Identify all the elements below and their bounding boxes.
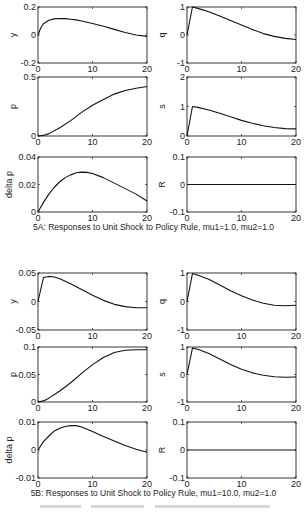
x-tick-label: 0 [184,331,189,341]
y-tick-label: 0.01 [18,417,36,427]
y-tick-label: 0.1 [23,342,36,352]
y-tick-label: -1 [177,58,185,68]
y-tick-label: 1 [180,102,185,112]
x-tick-label: 20 [142,137,152,147]
axes-frame [38,273,147,330]
axes-frame [38,157,147,212]
y-axis-label: p [8,372,18,377]
y-tick-label: 0.05 [18,370,36,380]
y-axis-label: y [8,32,18,37]
y-tick-label: 0 [180,445,185,455]
y-tick-label: 0 [31,131,36,141]
y-axis-label: R [157,181,167,188]
x-tick-label: 10 [87,137,97,147]
x-tick-label: 0 [184,403,189,413]
axes-frame [38,347,147,402]
subplot-5a-delta-p: 0102000.020.04delta p [4,152,152,223]
y-tick-label: 0.02 [18,180,36,190]
caption-5b: 5B: Responses to Unit Shock to Policy Ru… [0,488,307,498]
y-tick-label: 0 [180,30,185,40]
x-tick-label: 20 [142,331,152,341]
y-tick-label: 0 [180,180,185,190]
x-tick-label: 10 [87,403,97,413]
y-tick-label: 1 [180,268,185,278]
y-axis-label: delta p [4,171,14,198]
y-tick-label: 0 [31,30,36,40]
y-tick-label: 0 [31,207,36,217]
y-axis-label: delta p [4,436,14,463]
subplot-5a-p: 0102000.5p [8,72,152,147]
y-tick-label: -1 [177,397,185,407]
y-tick-label: 0.5 [23,72,36,82]
response-line [187,7,296,39]
response-line [38,426,147,453]
y-axis-label: q [157,32,167,37]
axes-frame [38,77,147,136]
subplot-5a-q: 01020-101q [157,2,301,74]
y-tick-label: 0 [31,397,36,407]
y-tick-label: 1 [180,2,185,12]
x-tick-label: 20 [291,137,301,147]
y-tick-label: -0.1 [169,207,185,217]
y-axis-label: p [8,104,18,109]
x-tick-label: 10 [236,137,246,147]
subplot-5b-p: 0102000.050.1p [8,342,152,413]
y-axis-label: q [157,299,167,304]
x-tick-label: 0 [35,137,40,147]
caption-5a: 5A: Responses to Unit Shock to Policy Ru… [0,222,307,232]
y-tick-label: 0.1 [172,152,185,162]
subplot-5b-s: 01020-101s [157,342,301,413]
y-tick-label: 0 [180,297,185,307]
x-tick-label: 20 [142,403,152,413]
response-line [38,18,147,36]
illegible-footer-caption [40,505,270,508]
x-tick-label: 10 [87,331,97,341]
x-tick-label: 0 [35,403,40,413]
subplot-5a-s: 01020012s [157,72,301,147]
y-tick-label: 0.1 [172,417,185,427]
subplot-5a-R: 01020-0.100.1R [157,152,301,223]
y-tick-label: 0.2 [23,2,36,12]
y-tick-label: -1 [177,325,185,335]
x-tick-label: 20 [291,331,301,341]
response-line [38,276,147,307]
subplot-5b-q: 01020-101q [157,268,301,341]
y-tick-label: -0.01 [15,473,36,483]
x-tick-label: 10 [236,331,246,341]
y-tick-label: 0.04 [18,152,36,162]
x-tick-label: 20 [291,64,301,74]
impulse-response-figure: 01020-0.200.2y01020-101q0102000.5p010200… [0,0,307,514]
subplot-5b-R: 01020-0.100.1R [157,417,301,489]
x-tick-label: 20 [142,64,152,74]
x-tick-label: 10 [236,64,246,74]
axes-frame [187,7,296,63]
subplot-5a-y: 01020-0.200.2y [8,2,152,74]
response-line [38,350,147,402]
y-tick-label: -0.1 [169,473,185,483]
x-tick-label: 0 [184,137,189,147]
y-axis-label: R [157,446,167,453]
response-line [187,348,296,377]
response-line [187,274,296,306]
y-tick-label: 0 [31,297,36,307]
axes-frame [38,7,147,63]
x-tick-label: 20 [291,403,301,413]
x-tick-label: 10 [236,403,246,413]
y-tick-label: 0.05 [18,268,36,278]
x-tick-label: 10 [87,64,97,74]
axes-frame [187,273,296,330]
subplot-5b-y: 01020-0.0500.05y [8,268,152,341]
y-axis-label: y [8,299,18,304]
x-tick-label: 0 [35,64,40,74]
y-tick-label: 2 [180,72,185,82]
response-line [38,86,147,136]
y-tick-label: 0 [31,445,36,455]
x-tick-label: 0 [35,331,40,341]
axes-frame [187,347,296,402]
y-tick-label: 0 [180,131,185,141]
axes-frame [187,77,296,136]
response-line [38,172,147,212]
x-tick-label: 0 [184,64,189,74]
response-line [187,107,296,137]
y-tick-label: -0.05 [15,325,36,335]
